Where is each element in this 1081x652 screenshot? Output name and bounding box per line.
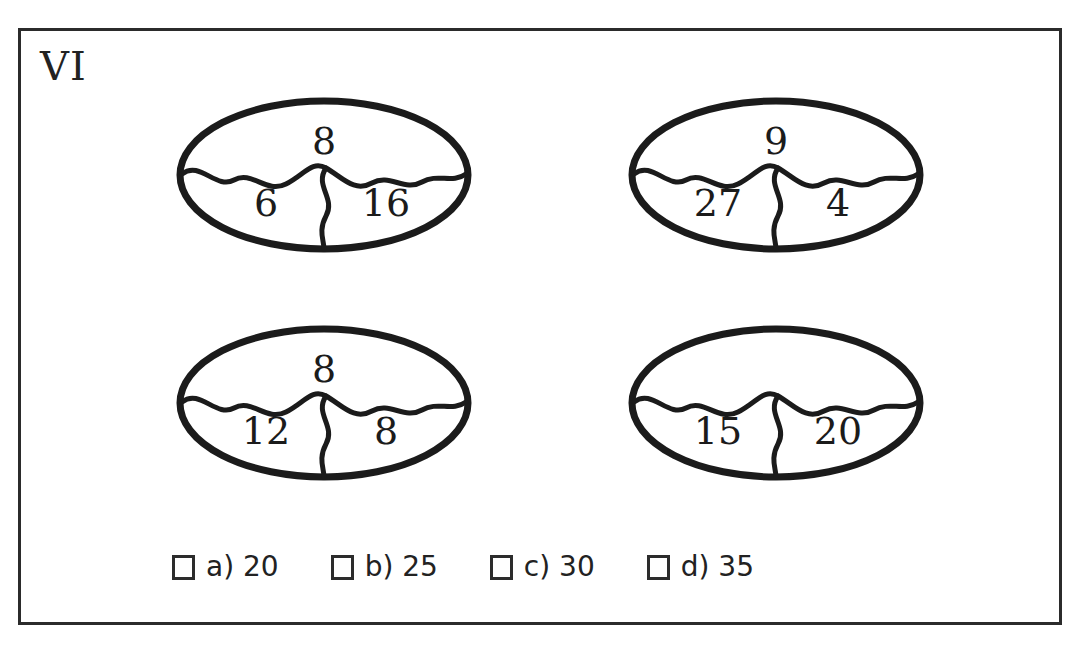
puzzle-oval-4: 15 20 <box>628 326 924 480</box>
answer-option-c-label: c) 30 <box>524 553 595 581</box>
oval-3-bottom-left-value: 12 <box>206 412 326 450</box>
answer-option-a-label: a) 20 <box>206 553 279 581</box>
puzzle-oval-2: 9 27 4 <box>628 98 924 252</box>
oval-1-bottom-right-value: 16 <box>326 184 446 222</box>
answer-option-d[interactable]: d) 35 <box>647 553 754 581</box>
checkbox-d-icon[interactable] <box>647 555 670 580</box>
worksheet-page: VI 8 6 16 9 27 4 8 12 8 <box>0 0 1081 652</box>
oval-4-bottom-right-value: 20 <box>778 412 898 450</box>
oval-1-bottom-left-value: 6 <box>206 184 326 222</box>
answer-option-b-label: b) 25 <box>365 553 438 581</box>
checkbox-b-icon[interactable] <box>331 555 354 580</box>
puzzle-oval-3: 8 12 8 <box>176 326 472 480</box>
oval-2-bottom-left-value: 27 <box>658 184 778 222</box>
problem-number-label: VI <box>40 46 87 86</box>
checkbox-a-icon[interactable] <box>172 555 195 580</box>
puzzle-oval-1: 8 6 16 <box>176 98 472 252</box>
oval-3-top-value: 8 <box>176 350 472 388</box>
oval-4-bottom-left-value: 15 <box>658 412 778 450</box>
answer-options-row: a) 20 b) 25 c) 30 d) 35 <box>172 546 892 588</box>
answer-option-a[interactable]: a) 20 <box>172 553 279 581</box>
oval-2-bottom-right-value: 4 <box>778 184 898 222</box>
oval-2-top-value: 9 <box>628 122 924 160</box>
answer-option-d-label: d) 35 <box>681 553 754 581</box>
checkbox-c-icon[interactable] <box>490 555 513 580</box>
answer-option-b[interactable]: b) 25 <box>331 553 438 581</box>
oval-1-top-value: 8 <box>176 122 472 160</box>
oval-shape-icon <box>628 326 924 480</box>
answer-option-c[interactable]: c) 30 <box>490 553 595 581</box>
oval-3-bottom-right-value: 8 <box>326 412 446 450</box>
